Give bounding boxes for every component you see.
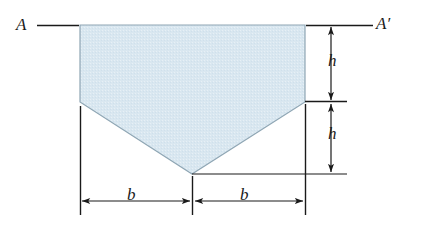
section-body-shape — [80, 25, 305, 174]
dimension-label-b-left: b — [127, 186, 136, 203]
dimension-label-h-top: h — [328, 52, 337, 69]
figure-canvas: A A′ h h b b — [0, 0, 423, 229]
axis-label-a: A — [16, 16, 26, 33]
dimension-label-h-bottom: h — [328, 125, 337, 142]
diagram-svg — [0, 0, 423, 229]
dimension-label-b-right: b — [240, 186, 249, 203]
axis-label-a-prime: A′ — [376, 15, 390, 32]
